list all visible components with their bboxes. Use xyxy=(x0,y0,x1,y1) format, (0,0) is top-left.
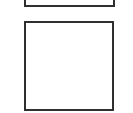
diagram-canvas xyxy=(0,0,133,113)
top-rectangle-box xyxy=(24,0,115,7)
bottom-square-box xyxy=(24,21,114,111)
